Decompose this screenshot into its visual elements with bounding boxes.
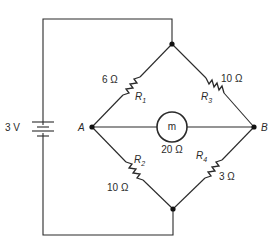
meter-value-label: 20 Ω [161, 144, 183, 155]
r3-value-label: 10 Ω [221, 73, 243, 84]
resistor-r3 [172, 44, 254, 127]
node-b-label: B [261, 122, 268, 133]
junction-bottom-dot [170, 206, 175, 211]
r4-value-label: 3 Ω [219, 171, 235, 182]
node-a-label: A [77, 122, 85, 133]
meter-symbol-label: m [168, 121, 176, 132]
wire-top [43, 19, 172, 125]
r1-value-label: 6 Ω [102, 74, 118, 85]
battery-voltage-label: 3 V [5, 122, 20, 133]
resistor-r4 [173, 127, 254, 209]
r1-name-label: R1 [135, 91, 146, 104]
r2-value-label: 10 Ω [107, 182, 129, 193]
r4-name-label: R4 [196, 150, 207, 163]
r3-name-label: R3 [201, 91, 212, 104]
junction-top-dot [169, 41, 174, 46]
node-a-dot [89, 124, 94, 129]
circuit-diagram: 3 V 6 Ω R1 10 Ω R3 10 Ω R2 3 Ω R4 m 20 Ω… [0, 0, 280, 246]
node-b-dot [251, 124, 256, 129]
r2-name-label: R2 [134, 154, 145, 167]
resistor-r1 [92, 44, 172, 127]
resistor-r2 [92, 127, 173, 209]
